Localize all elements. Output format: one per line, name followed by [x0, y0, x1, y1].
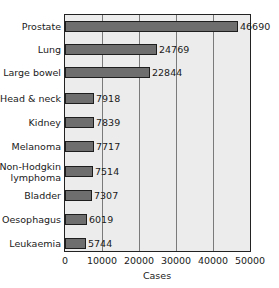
category-label: Prostate — [22, 21, 61, 32]
bar — [65, 93, 94, 104]
bar — [65, 141, 94, 152]
bar-value-label: 7514 — [95, 166, 119, 177]
x-tick-label: 0 — [62, 255, 68, 266]
category-label: Lung — [38, 44, 61, 55]
bar-value-label: 24769 — [159, 44, 189, 55]
bar — [65, 44, 157, 55]
bar — [65, 21, 238, 32]
bar-value-label: 7839 — [96, 117, 120, 128]
x-tick-label: 20000 — [124, 255, 154, 266]
bar — [65, 238, 86, 249]
category-label: Head & neck — [0, 93, 61, 104]
category-label: Leukaemia — [9, 238, 61, 249]
x-axis-label: Cases — [143, 270, 171, 281]
x-tick-label: 40000 — [198, 255, 228, 266]
x-tick-label: 30000 — [161, 255, 191, 266]
bar — [65, 214, 87, 225]
bar-value-label: 22844 — [152, 67, 182, 78]
bar — [65, 190, 92, 201]
bar-value-label: 5744 — [88, 238, 112, 249]
x-tick-label: 50000 — [235, 255, 265, 266]
horizontal-bar-chart: ProstateLungLarge bowelHead & neckKidney… — [0, 0, 279, 288]
bar — [65, 67, 150, 78]
bar — [65, 166, 93, 177]
bar — [65, 117, 94, 128]
x-tick-label: 10000 — [87, 255, 117, 266]
bar-value-label: 6019 — [89, 214, 113, 225]
category-label: Melanoma — [12, 141, 61, 152]
gridline — [213, 15, 214, 251]
category-label: Oesophagus — [2, 214, 61, 225]
category-label: Bladder — [24, 190, 61, 201]
bar-value-label: 7307 — [94, 190, 118, 201]
category-label: Non-Hodgkinlymphoma — [0, 161, 61, 183]
category-label: Kidney — [29, 117, 61, 128]
bar-value-label: 46690 — [240, 21, 270, 32]
bar-value-label: 7717 — [96, 141, 120, 152]
bar-value-label: 7918 — [96, 93, 120, 104]
category-label: Large bowel — [3, 67, 61, 78]
